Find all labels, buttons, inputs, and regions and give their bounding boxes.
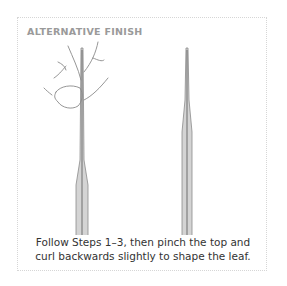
panel-title: ALTERNATIVE FINISH — [27, 26, 143, 37]
caption-line-2: curl backwards slightly to shape the lea… — [18, 249, 268, 263]
hand-pinching-stem-illustration — [44, 42, 108, 235]
caption-line-1: Follow Steps 1–3, then pinch the top and — [18, 235, 268, 249]
illustration-area — [18, 40, 268, 235]
alternative-finish-panel: ALTERNATIVE FINISH Follow — [17, 17, 267, 271]
finished-stem-illustration — [182, 48, 192, 235]
instruction-caption: Follow Steps 1–3, then pinch the top and… — [18, 235, 268, 263]
